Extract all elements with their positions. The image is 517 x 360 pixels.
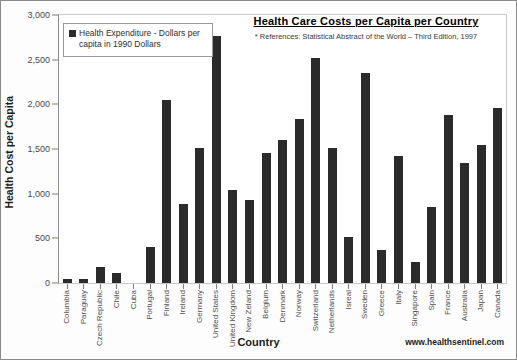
x-tick-mark	[299, 284, 300, 289]
bar	[477, 145, 486, 283]
y-tick-mark	[52, 15, 58, 16]
y-tick-mark	[52, 283, 58, 284]
x-tick-label: Belgium	[262, 290, 270, 319]
bar-slot	[423, 15, 440, 283]
x-tick-label: Denmark	[279, 290, 287, 322]
x-tick-mark	[381, 284, 382, 289]
x-tick-mark	[398, 284, 399, 289]
x-tick-label: France	[444, 290, 452, 315]
bar-slot	[258, 15, 275, 283]
x-tick-label: Germany	[196, 290, 204, 323]
bar	[63, 279, 72, 283]
x-tick-mark	[67, 284, 68, 289]
y-tick-label: 2,000	[27, 99, 50, 109]
x-tick-mark	[83, 284, 84, 289]
bar	[444, 115, 453, 283]
y-tick-mark	[52, 193, 58, 194]
x-tick-label: Portugal	[146, 290, 154, 320]
bar	[311, 58, 320, 283]
x-tick-mark	[282, 284, 283, 289]
x-tick-mark	[415, 284, 416, 289]
bar	[377, 250, 386, 283]
x-tick-label: Switzerland	[312, 290, 320, 331]
chart-title: Health Care Costs per Capita per Country	[231, 15, 501, 27]
bar	[394, 156, 403, 283]
x-tick-label: Japan	[477, 290, 485, 312]
y-axis-title: Health Cost per Capita	[3, 96, 15, 209]
x-tick-mark	[365, 284, 366, 289]
x-tick-mark	[348, 284, 349, 289]
bar-slot	[407, 15, 424, 283]
x-tick-mark	[100, 284, 101, 289]
x-tick-mark	[315, 284, 316, 289]
y-tick-label: 3,000	[27, 10, 50, 20]
bar	[96, 267, 105, 283]
bar-slot	[241, 15, 258, 283]
x-tick-label: New Zeland	[245, 290, 253, 333]
x-tick-mark	[431, 284, 432, 289]
x-tick-mark	[232, 284, 233, 289]
y-tick-label: 500	[35, 233, 50, 243]
x-tick-mark	[448, 284, 449, 289]
bar-slot	[291, 15, 308, 283]
bar	[411, 262, 420, 283]
bar	[295, 119, 304, 283]
bar-slot	[357, 15, 374, 283]
bar-slot	[390, 15, 407, 283]
source-url: www.healthsentinel.com	[405, 337, 504, 347]
chart-subtitle: * References: Statistical Abstract of th…	[231, 32, 501, 41]
x-tick-label: Singapore	[411, 290, 419, 326]
x-tick-mark	[464, 284, 465, 289]
x-tick-label: Ireland	[179, 290, 187, 314]
y-tick-label: 1,000	[27, 189, 50, 199]
x-tick-label: Netherlands	[328, 290, 336, 333]
x-tick-label: Greece	[378, 290, 386, 316]
y-tick-mark	[52, 238, 58, 239]
bar-slot	[473, 15, 490, 283]
legend: Health Expenditure - Dollars per capita …	[63, 23, 213, 57]
x-tick-mark	[116, 284, 117, 289]
x-tick-label: Italy	[395, 290, 403, 305]
x-tick-label: Isreal	[345, 290, 353, 310]
bar	[79, 279, 88, 283]
bar	[195, 148, 204, 283]
bar	[228, 190, 237, 283]
bar	[112, 273, 121, 283]
x-tick-mark	[150, 284, 151, 289]
y-tick-label: 0	[45, 278, 50, 288]
y-tick-mark	[52, 149, 58, 150]
bar-slot	[374, 15, 391, 283]
y-tick-mark	[52, 104, 58, 105]
bar	[278, 140, 287, 283]
bar-slot	[324, 15, 341, 283]
bar-slot	[341, 15, 358, 283]
x-tick-mark	[497, 284, 498, 289]
x-tick-mark	[266, 284, 267, 289]
x-tick-label: Sweden	[361, 290, 369, 319]
bar	[344, 237, 353, 283]
x-tick-mark	[166, 284, 167, 289]
bar-slot	[490, 15, 507, 283]
x-tick-mark	[133, 284, 134, 289]
bar	[460, 163, 469, 283]
bar	[245, 200, 254, 283]
x-tick-label: Norway	[295, 290, 303, 317]
bar	[493, 108, 502, 283]
x-tick-mark	[249, 284, 250, 289]
bar-slot	[225, 15, 242, 283]
x-tick-label: United States	[212, 290, 220, 338]
bar	[328, 148, 337, 283]
bar-slot	[307, 15, 324, 283]
bar	[361, 73, 370, 283]
bar-slot	[274, 15, 291, 283]
x-tick-mark	[199, 284, 200, 289]
legend-label: Health Expenditure - Dollars per capita …	[79, 28, 204, 51]
x-tick-mark	[183, 284, 184, 289]
bar-slot	[457, 15, 474, 283]
bar-slot	[440, 15, 457, 283]
x-tick-label: Australia	[461, 290, 469, 321]
bar	[212, 36, 221, 283]
y-tick-label: 2,500	[27, 55, 50, 65]
bar	[146, 247, 155, 283]
bar	[179, 204, 188, 283]
